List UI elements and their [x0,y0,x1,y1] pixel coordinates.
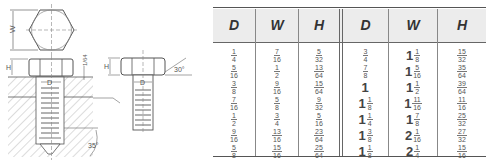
fraction: 38 [231,80,237,95]
fraction: 78 [363,64,369,79]
table-cell: 716 [256,47,298,63]
table-cell: 1516 [389,63,437,79]
fraction: 2532 [457,112,467,127]
table-cell: 38 [213,79,255,95]
table-cell: 11116 [389,95,437,111]
table-cell: 12 [213,111,255,127]
fraction: 34 [363,48,369,63]
whole-number: 1 [406,48,413,63]
fraction: 12 [231,112,237,127]
table-cell: 178 [389,111,437,127]
whole-number: 1 [404,96,411,111]
table-cell: 3964 [438,79,486,95]
fraction: 12 [274,64,280,79]
table-cell: 2364 [299,127,339,143]
table-cell: 112 [389,79,437,95]
table-cell: 34 [256,111,298,127]
fraction: 2364 [314,128,324,143]
table-cell: 118 [343,95,388,111]
bolt-head-section [29,59,73,76]
height-label-side: H [104,63,109,70]
table-cell: 34 [343,47,388,63]
whole-number: 1 [406,112,413,127]
table-cell: 114 [343,111,388,127]
table-cell: 516 [213,63,255,79]
bolt-head-side [121,58,165,75]
fraction: 532 [315,48,323,63]
fraction: 516 [413,64,421,79]
diameter-label-side: D [140,79,145,86]
header-h-left: H [299,9,339,42]
table-cell: 1532 [438,47,486,63]
whole-number: 1 [358,96,365,111]
fraction: 1564 [314,80,324,95]
table-cell: 1516 [438,143,486,159]
fraction: 1532 [457,48,467,63]
point-angle-label: 35° [88,142,99,149]
table-cell: 1564 [299,79,339,95]
table-cell: 916 [213,127,255,143]
table-cell: 932 [299,95,339,111]
fraction: 1364 [314,64,324,79]
chamfer-label: 1/64 [82,54,88,66]
fraction: 18 [367,144,373,159]
fraction: 1116 [412,96,421,111]
whole-number: 2 [406,144,413,159]
fraction: 716 [230,96,238,111]
header-d-right: D [343,9,388,42]
diameter-label-section: D [47,79,52,86]
height-label-section: H [6,64,11,71]
fraction: 2564 [314,144,324,159]
table-cell: 2564 [299,143,339,159]
fraction: 58 [231,144,237,159]
whole-number: 2 [405,128,412,143]
fraction: 516 [315,112,323,127]
whole-number: 1 [358,144,365,159]
fraction: 1316 [272,128,282,143]
fraction: 1516 [272,144,282,159]
table-cell: 58 [256,95,298,111]
fraction: 2732 [457,128,467,143]
header-rule [213,42,486,43]
table-cell: 1 [343,79,388,95]
table-cell: 716 [213,95,255,111]
fraction: 916 [230,128,238,143]
fraction: 916 [273,80,281,95]
fraction: 116 [413,128,421,143]
fraction: 34 [274,112,280,127]
table-top-rule [213,7,486,8]
header-h-right: H [438,9,486,42]
header-w-right: W [389,9,437,42]
whole-number: 1 [406,80,413,95]
fraction: 3564 [457,64,467,79]
table-cell: 138 [343,127,388,143]
fraction: 1516 [457,144,467,159]
fraction: 716 [273,48,281,63]
fraction: 516 [230,64,238,79]
table-cell: 214 [389,143,437,159]
fraction: 78 [414,112,420,127]
table-cell: 3564 [438,63,486,79]
whole-number: 1 [358,112,365,127]
table-cell: 2532 [438,111,486,127]
table-cell: 12 [256,63,298,79]
table-cell: 1516 [256,143,298,159]
fraction: 14 [231,48,237,63]
table-cell: 58 [213,143,255,159]
whole-number: 1 [358,128,365,143]
head-angle-label: 30° [174,66,185,73]
fraction: 38 [367,128,373,143]
fraction: 58 [274,96,280,111]
whole-number: 1 [361,80,368,95]
top-view-hexagon [26,4,77,56]
whole-number: 1 [405,64,412,79]
table-cell: 1316 [256,127,298,143]
table-cell: 118 [389,47,437,63]
table-cell: 916 [256,79,298,95]
table-cell: 14 [213,47,255,63]
table-cell: 2732 [438,127,486,143]
header-d-left: D [213,9,255,42]
table-cell: 532 [299,47,339,63]
table-cell: 1364 [299,63,339,79]
table-cell: 78 [343,63,388,79]
